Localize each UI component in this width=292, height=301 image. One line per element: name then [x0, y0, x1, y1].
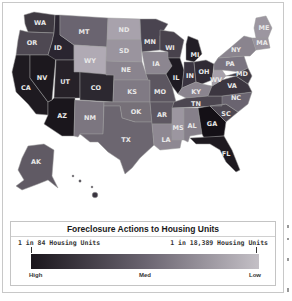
state-label-MN: MN — [144, 38, 156, 46]
state-label-IA: IA — [152, 60, 159, 68]
state-label-NE: NE — [121, 66, 131, 74]
legend-low-label: Low — [249, 272, 261, 278]
edge-mark — [287, 258, 289, 261]
state-label-TX: TX — [121, 136, 130, 144]
state-label-AZ: AZ — [57, 112, 67, 120]
state-label-ND: ND — [119, 26, 130, 34]
legend-left-tick — [31, 247, 32, 253]
legend-left-label: 1 in 84 Housing Units — [18, 239, 100, 247]
state-label-TN: TN — [191, 100, 201, 108]
legend-gradient-bar — [31, 254, 259, 269]
state-label-KS: KS — [127, 88, 137, 96]
edge-mark — [287, 225, 289, 228]
state-label-KY: KY — [191, 88, 201, 96]
us-choropleth-map: WAORCANVIDMTWYUTAZCONMNDSDNEKSOKTXMNIAMO… — [0, 0, 292, 220]
edge-mark — [287, 288, 289, 292]
state-label-AK: AK — [31, 158, 42, 166]
state-label-WV: WV — [210, 76, 222, 84]
state-label-VA: VA — [227, 82, 237, 90]
state-label-OH: OH — [199, 68, 210, 76]
state-label-SD: SD — [119, 47, 130, 55]
state-label-MI: MI — [191, 51, 200, 59]
state-label-LA: LA — [161, 136, 170, 144]
state-label-CO: CO — [91, 84, 102, 92]
state-label-MT: MT — [79, 28, 90, 36]
state-label-WI: WI — [165, 44, 175, 52]
state-FL[interactable] — [190, 136, 240, 172]
state-label-NV: NV — [37, 74, 47, 82]
legend-right-label: 1 in 18,389 Housing Units — [170, 239, 268, 247]
state-AK[interactable] — [16, 144, 58, 190]
state-label-WA: WA — [34, 19, 46, 27]
legend-title: Foreclosure Actions to Housing Units — [11, 222, 275, 237]
legend-med-label: Med — [139, 272, 151, 278]
state-label-ME: ME — [259, 24, 270, 32]
state-label-GA: GA — [207, 120, 217, 128]
state-label-PA: PA — [225, 60, 234, 68]
state-label-UT: UT — [60, 78, 70, 86]
state-label-MO: MO — [154, 88, 166, 96]
state-label-NC: NC — [231, 94, 241, 102]
state-label-ID: ID — [54, 44, 62, 52]
state-label-NM: NM — [84, 114, 96, 122]
state-label-OR: OR — [27, 39, 38, 47]
state-label-AL: AL — [187, 122, 196, 130]
state-label-MS: MS — [172, 124, 183, 132]
legend-right-tick — [256, 247, 257, 253]
state-HI[interactable] — [72, 175, 98, 198]
state-label-NY: NY — [231, 46, 241, 54]
legend-high-label: High — [29, 272, 42, 278]
state-label-OK: OK — [131, 108, 143, 116]
state-label-MA: MA — [256, 39, 268, 47]
state-label-AR: AR — [157, 111, 167, 119]
state-label-IN: IN — [186, 72, 194, 80]
state-label-SC: SC — [221, 110, 231, 118]
state-label-MD: MD — [236, 70, 248, 78]
state-label-WY: WY — [84, 57, 96, 65]
state-label-IL: IL — [173, 74, 180, 82]
state-label-FL: FL — [222, 150, 231, 158]
edge-mark — [287, 238, 289, 240]
state-label-CA: CA — [21, 84, 31, 92]
legend-box: Foreclosure Actions to Housing Units 1 i… — [10, 221, 276, 286]
